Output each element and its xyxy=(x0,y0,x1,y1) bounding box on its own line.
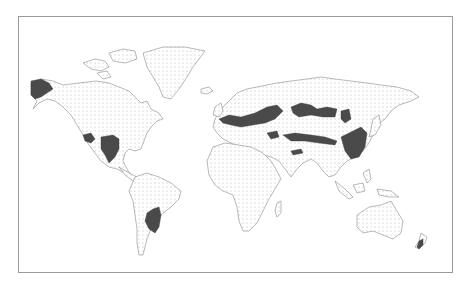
figure-caption xyxy=(80,282,280,291)
iceland xyxy=(201,87,213,94)
greenland xyxy=(143,47,205,99)
madagascar xyxy=(275,201,281,217)
map-frame xyxy=(18,16,453,273)
north-america xyxy=(31,79,163,175)
world-map xyxy=(19,17,454,274)
arctic-islands xyxy=(83,49,137,79)
australia xyxy=(357,201,403,239)
highlight-new-zealand xyxy=(417,239,423,249)
southeast-asia-islands xyxy=(335,169,399,199)
